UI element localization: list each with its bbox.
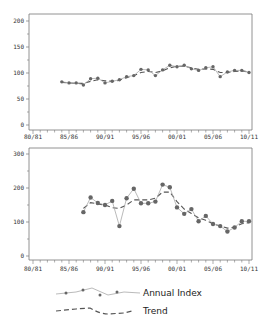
top-chart: 05010015020080/8185/8690/9195/9600/0105/… [13,14,258,140]
annual-index-marker [218,224,222,228]
x-tick-label: 90/91 [96,133,114,140]
annual-index-marker [88,195,92,199]
annual-index-marker [82,83,85,86]
annual-index-marker [175,205,179,209]
legend-trend-label: Trend [142,306,168,316]
legend-annual-index-marker [65,292,68,295]
x-tick-label: 95/96 [132,265,150,272]
annual-index-marker [154,74,157,77]
annual-index-marker [111,80,114,83]
y-tick-label: 50 [17,95,25,102]
annual-index-marker [125,75,128,78]
legend-annual-index-marker [99,294,102,297]
annual-index-marker [96,201,100,205]
annual-index-marker [168,63,171,66]
annual-index-marker [240,219,244,223]
legend-trend-line [56,308,132,314]
annual-index-marker [175,65,178,68]
annual-index-marker [67,81,70,84]
legend-annual-index-marker [116,291,119,294]
annual-index-marker [124,196,128,200]
annual-index-marker [197,69,200,72]
annual-index-marker [60,80,63,83]
annual-index-marker [139,201,143,205]
annual-index-marker [96,77,99,80]
y-tick-label: 100 [13,218,24,225]
x-tick-label: 00/01 [168,265,186,272]
annual-index-marker [139,68,142,71]
annual-index-marker [168,185,172,189]
annual-index-marker [240,69,243,72]
annual-index-marker [232,225,236,229]
annual-index-marker [132,186,136,190]
legend-annual-index-marker [82,289,85,292]
annual-index-marker [247,219,251,223]
y-tick-label: 150 [13,43,24,50]
annual-index-marker [190,67,193,70]
annual-index-marker [225,229,229,233]
annual-index-marker [110,199,114,203]
annual-index-marker [211,222,215,226]
annual-index-marker [153,199,157,203]
annual-index-marker [118,78,121,81]
x-tick-label: 85/86 [60,133,78,140]
y-tick-label: 0 [20,252,24,259]
y-tick-label: 100 [13,69,24,76]
annual-index-marker [247,71,250,74]
legend-annual-index-label: Annual Index [143,288,203,298]
y-tick-label: 200 [13,17,24,24]
figure: 05010015020080/8185/8690/9195/9600/0105/… [0,0,269,324]
annual-index-marker [211,65,214,68]
y-tick-label: 0 [20,121,24,128]
annual-index-marker [233,69,236,72]
annual-index-marker [103,203,107,207]
annual-index-marker [226,70,229,73]
y-tick-label: 300 [13,150,24,157]
annual-index-marker [183,63,186,66]
bottom-chart: 010020030080/8185/8690/9195/9600/0105/06… [13,148,258,272]
annual-index-marker [182,212,186,216]
annual-index-marker [219,75,222,78]
annual-index-marker [146,201,150,205]
annual-index-marker [81,210,85,214]
annual-index-marker [132,74,135,77]
x-tick-label: 00/01 [168,133,186,140]
legend-annual-index-line [56,288,140,295]
x-tick-label: 10/11 [240,133,258,140]
annual-index-marker [160,182,164,186]
annual-index-marker [196,219,200,223]
y-tick-label: 200 [13,184,24,191]
annual-index-marker [204,66,207,69]
x-tick-label: 10/11 [240,265,258,272]
annual-index-marker [161,68,164,71]
trend-line [83,192,249,228]
x-tick-label: 05/06 [204,133,222,140]
x-tick-label: 95/96 [132,133,150,140]
annual-index-marker [117,224,121,228]
legend: Annual Index Trend [56,288,203,316]
x-tick-label: 80/81 [24,133,42,140]
x-tick-label: 90/91 [96,265,114,272]
x-tick-label: 80/81 [24,265,42,272]
annual-index-marker [204,214,208,218]
annual-index-marker [189,207,193,211]
x-tick-label: 85/86 [60,265,78,272]
annual-index-marker [147,68,150,71]
annual-index-marker [75,81,78,84]
annual-index-marker [89,77,92,80]
annual-index-marker [103,81,106,84]
x-tick-label: 05/06 [204,265,222,272]
